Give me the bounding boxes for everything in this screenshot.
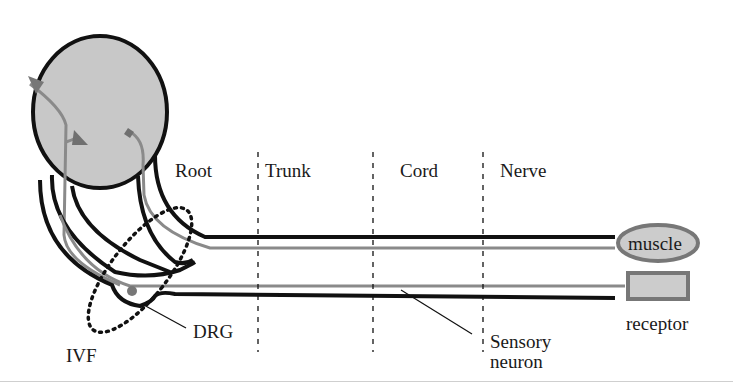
sensory-neuron-label: Sensory neuron (490, 332, 551, 372)
drg-cell-dot (127, 286, 137, 296)
nerve-pathway-diagram (0, 0, 733, 390)
region-label-nerve: Nerve (500, 161, 546, 180)
sensory-label-line1: Sensory (490, 331, 551, 352)
region-label-trunk: Trunk (265, 161, 311, 180)
sensory-label-line2: neuron (490, 351, 543, 372)
region-label-cord: Cord (400, 161, 438, 180)
muscle-label: muscle (628, 234, 682, 253)
region-label-root: Root (175, 161, 212, 180)
bottom-rule (0, 381, 733, 382)
ivf-label: IVF (66, 346, 97, 365)
receptor-label: receptor (626, 314, 688, 333)
drg-label: DRG (193, 322, 233, 341)
spinal-cord (33, 36, 167, 188)
drg-pointer (142, 304, 186, 328)
receptor-target (628, 273, 688, 299)
